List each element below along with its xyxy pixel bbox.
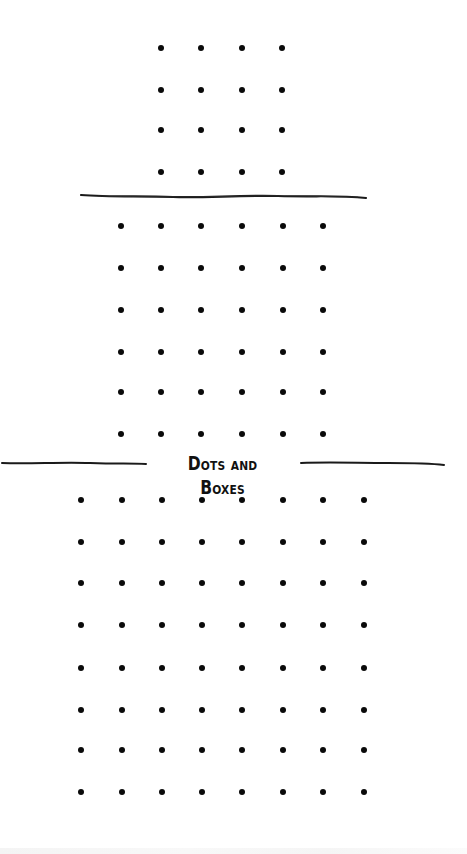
grid-dot[interactable] <box>158 45 164 51</box>
grid-dot[interactable] <box>239 665 245 671</box>
grid-dot[interactable] <box>239 307 245 313</box>
grid-dot[interactable] <box>320 747 326 753</box>
grid-dot[interactable] <box>158 389 164 395</box>
grid-dot[interactable] <box>78 665 84 671</box>
grid-dot[interactable] <box>361 539 367 545</box>
grid-dot[interactable] <box>239 349 245 355</box>
grid-dot[interactable] <box>279 45 285 51</box>
grid-dot[interactable] <box>78 622 84 628</box>
grid-dot[interactable] <box>239 431 245 437</box>
grid-dot[interactable] <box>280 747 286 753</box>
grid-dot[interactable] <box>361 580 367 586</box>
grid-dot[interactable] <box>159 665 165 671</box>
grid-dot[interactable] <box>239 622 245 628</box>
grid-dot[interactable] <box>280 665 286 671</box>
grid-dot[interactable] <box>158 87 164 93</box>
grid-dot[interactable] <box>78 789 84 795</box>
grid-dot[interactable] <box>239 265 245 271</box>
grid-dot[interactable] <box>239 169 245 175</box>
grid-dot[interactable] <box>118 223 124 229</box>
grid-dot[interactable] <box>118 307 124 313</box>
grid-dot[interactable] <box>320 349 326 355</box>
grid-dot[interactable] <box>119 789 125 795</box>
grid-dot[interactable] <box>158 307 164 313</box>
grid-dot[interactable] <box>119 747 125 753</box>
grid-dot[interactable] <box>118 349 124 355</box>
grid-dot[interactable] <box>280 622 286 628</box>
grid-dot[interactable] <box>320 431 326 437</box>
grid-dot[interactable] <box>118 389 124 395</box>
grid-dot[interactable] <box>119 622 125 628</box>
grid-dot[interactable] <box>239 127 245 133</box>
grid-dot[interactable] <box>199 747 205 753</box>
grid-dot[interactable] <box>239 87 245 93</box>
grid-dot[interactable] <box>159 707 165 713</box>
grid-dot[interactable] <box>361 665 367 671</box>
grid-dot[interactable] <box>158 169 164 175</box>
grid-dot[interactable] <box>239 389 245 395</box>
grid-dot[interactable] <box>239 45 245 51</box>
grid-dot[interactable] <box>239 223 245 229</box>
grid-dot[interactable] <box>198 389 204 395</box>
grid-dot[interactable] <box>320 789 326 795</box>
grid-dot[interactable] <box>198 431 204 437</box>
grid-dot[interactable] <box>280 307 286 313</box>
grid-dot[interactable] <box>119 497 125 503</box>
grid-dot[interactable] <box>361 622 367 628</box>
grid-dot[interactable] <box>78 707 84 713</box>
grid-dot[interactable] <box>320 665 326 671</box>
grid-dot[interactable] <box>198 307 204 313</box>
grid-dot[interactable] <box>361 789 367 795</box>
grid-dot[interactable] <box>320 497 326 503</box>
grid-dot[interactable] <box>119 539 125 545</box>
grid-dot[interactable] <box>320 265 326 271</box>
grid-dot[interactable] <box>280 265 286 271</box>
grid-dot[interactable] <box>198 265 204 271</box>
grid-dot[interactable] <box>239 539 245 545</box>
grid-dot[interactable] <box>361 707 367 713</box>
grid-dot[interactable] <box>280 349 286 355</box>
grid-dot[interactable] <box>239 789 245 795</box>
grid-dot[interactable] <box>199 789 205 795</box>
grid-dot[interactable] <box>239 707 245 713</box>
grid-dot[interactable] <box>159 539 165 545</box>
grid-dot[interactable] <box>279 127 285 133</box>
grid-dot[interactable] <box>239 580 245 586</box>
grid-dot[interactable] <box>279 169 285 175</box>
grid-dot[interactable] <box>280 580 286 586</box>
grid-dot[interactable] <box>78 747 84 753</box>
grid-dot[interactable] <box>199 622 205 628</box>
grid-dot[interactable] <box>78 497 84 503</box>
grid-dot[interactable] <box>119 665 125 671</box>
grid-dot[interactable] <box>198 349 204 355</box>
grid-dot[interactable] <box>320 622 326 628</box>
grid-dot[interactable] <box>280 431 286 437</box>
grid-dot[interactable] <box>158 223 164 229</box>
grid-dot[interactable] <box>199 665 205 671</box>
grid-dot[interactable] <box>198 87 204 93</box>
grid-dot[interactable] <box>119 707 125 713</box>
grid-dot[interactable] <box>280 389 286 395</box>
grid-dot[interactable] <box>239 747 245 753</box>
grid-dot[interactable] <box>78 580 84 586</box>
grid-dot[interactable] <box>199 580 205 586</box>
grid-dot[interactable] <box>280 539 286 545</box>
grid-dot[interactable] <box>320 223 326 229</box>
grid-dot[interactable] <box>118 431 124 437</box>
grid-dot[interactable] <box>280 789 286 795</box>
grid-dot[interactable] <box>159 580 165 586</box>
grid-dot[interactable] <box>199 707 205 713</box>
grid-dot[interactable] <box>159 747 165 753</box>
grid-dot[interactable] <box>78 539 84 545</box>
grid-dot[interactable] <box>118 265 124 271</box>
grid-dot[interactable] <box>320 539 326 545</box>
grid-dot[interactable] <box>320 580 326 586</box>
grid-dot[interactable] <box>280 223 286 229</box>
grid-dot[interactable] <box>320 389 326 395</box>
grid-dot[interactable] <box>158 127 164 133</box>
grid-dot[interactable] <box>198 127 204 133</box>
grid-dot[interactable] <box>320 707 326 713</box>
grid-dot[interactable] <box>158 431 164 437</box>
grid-dot[interactable] <box>320 307 326 313</box>
grid-dot[interactable] <box>159 622 165 628</box>
